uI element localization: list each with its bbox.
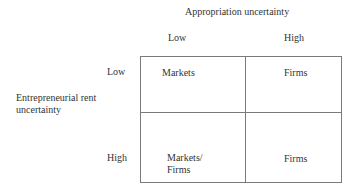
cell-high-low-line1: Markets/ (167, 152, 203, 164)
column-level-high: High (284, 32, 304, 43)
cell-high-low-line2: Firms (167, 164, 203, 176)
cell-low-high: Firms (284, 67, 307, 79)
row-axis-title-line2: uncertainty (16, 104, 96, 116)
cell-high-high: Firms (284, 153, 307, 165)
column-level-low: Low (168, 32, 186, 43)
cell-low-low: Markets (162, 67, 195, 79)
cell-high-low: Markets/ Firms (167, 152, 203, 176)
row-level-high: High (107, 152, 127, 163)
column-axis-title: Appropriation uncertainty (185, 6, 289, 17)
row-axis-title-line1: Entrepreneurial rent (16, 92, 96, 104)
grid-horizontal-divider (141, 112, 341, 113)
row-axis-title: Entrepreneurial rent uncertainty (16, 92, 96, 116)
matrix-grid: Markets Firms Markets/ Firms Firms (140, 56, 342, 183)
grid-vertical-divider (245, 57, 246, 182)
row-level-low: Low (107, 66, 125, 77)
